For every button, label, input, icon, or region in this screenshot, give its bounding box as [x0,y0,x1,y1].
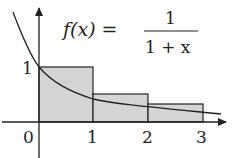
rectangle-1-2 [93,94,148,122]
riemann-rectangles [39,67,203,122]
x-tick-1: 1 [87,127,98,147]
formula-numerator: 1 [165,8,176,28]
formula-denominator: 1 + x [145,37,191,57]
y-tick-1: 1 [22,58,33,78]
formula-lhs: f(x) = [61,18,118,40]
riemann-sum-diagram: 0 1 2 3 1 f(x) = 1 1 + x [0,0,234,158]
x-tick-3: 3 [196,127,207,147]
rectangle-2-3 [148,104,203,122]
x-tick-0: 0 [23,127,34,147]
x-tick-2: 2 [142,127,153,147]
